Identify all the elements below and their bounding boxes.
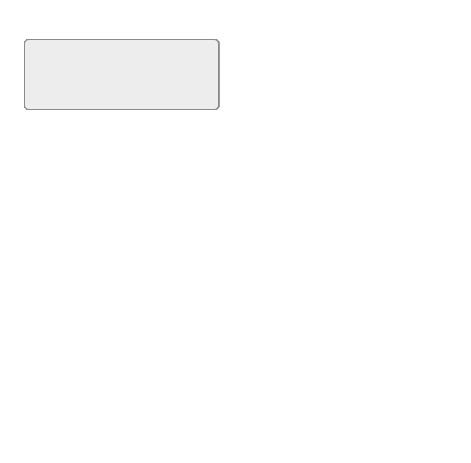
section-top	[24, 39, 219, 110]
